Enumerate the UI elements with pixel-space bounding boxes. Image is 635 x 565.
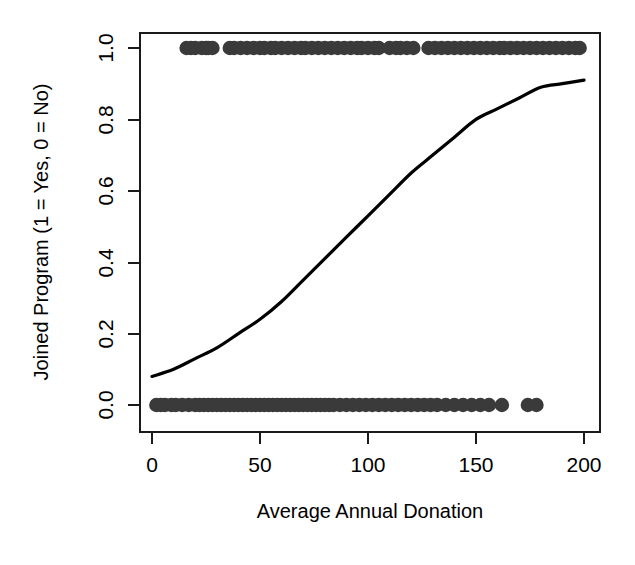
data-point	[482, 398, 496, 412]
x-axis-tick-labels: 0 50 100 150 200	[146, 453, 601, 476]
y-tick-label-3: 0.6	[94, 176, 117, 205]
data-point	[495, 398, 509, 412]
y-axis-tick-labels: 0.0 0.2 0.4 0.6 0.8 1.0	[94, 33, 117, 419]
scatter-points-not-joined	[149, 398, 544, 412]
y-tick-label-1: 0.2	[94, 319, 117, 348]
y-tick-label-2: 0.4	[94, 248, 117, 278]
scatter-points-joined	[179, 41, 587, 55]
x-tick-label-4: 200	[566, 453, 601, 476]
plot-svg: 0 50 100 150 200 0.0 0.2 0.4 0.6 0.8 1.0…	[0, 0, 635, 565]
x-tick-label-1: 50	[248, 453, 271, 476]
logistic-fit-curve	[152, 80, 584, 376]
x-tick-label-2: 100	[350, 453, 385, 476]
y-tick-label-0: 0.0	[94, 390, 117, 419]
data-point	[529, 398, 543, 412]
y-axis-ticks	[128, 48, 140, 405]
x-axis-title: Average Annual Donation	[257, 500, 483, 522]
y-axis-title: Joined Program (1 = Yes, 0 = No)	[30, 84, 52, 381]
y-tick-label-5: 1.0	[94, 33, 117, 62]
data-point	[406, 41, 420, 55]
data-point	[205, 41, 219, 55]
x-axis-ticks	[152, 432, 584, 444]
logistic-regression-figure: 0 50 100 150 200 0.0 0.2 0.4 0.6 0.8 1.0…	[0, 0, 635, 565]
data-point	[572, 41, 586, 55]
x-tick-label-0: 0	[146, 453, 158, 476]
x-tick-label-3: 150	[458, 453, 493, 476]
y-tick-label-4: 0.8	[94, 105, 117, 134]
